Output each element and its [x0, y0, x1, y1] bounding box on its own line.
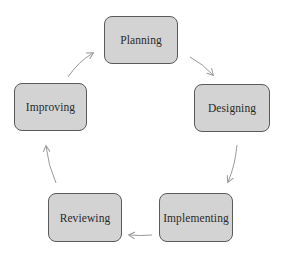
- node-label-improving: Improving: [26, 101, 75, 113]
- arrow-implementing-to-reviewing: [129, 235, 152, 236]
- node-designing: Designing: [194, 84, 270, 132]
- arrow-improving-to-planning: [68, 53, 93, 77]
- arrow-designing-to-implementing: [228, 145, 237, 182]
- arrow-reviewing-to-improving: [46, 146, 56, 183]
- arrow-planning-to-designing: [190, 57, 213, 75]
- node-reviewing: Reviewing: [48, 193, 122, 242]
- node-label-planning: Planning: [120, 34, 162, 46]
- node-planning: Planning: [104, 16, 178, 64]
- cycle-diagram: Planning Designing Implementing Reviewin…: [0, 0, 281, 254]
- node-improving: Improving: [14, 83, 87, 131]
- node-label-reviewing: Reviewing: [60, 212, 111, 224]
- node-implementing: Implementing: [159, 193, 233, 242]
- node-label-designing: Designing: [208, 102, 256, 114]
- node-label-implementing: Implementing: [163, 212, 229, 224]
